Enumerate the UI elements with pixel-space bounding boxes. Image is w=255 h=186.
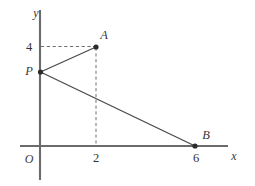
y-axis-label: y xyxy=(33,7,38,19)
point-P-label: P xyxy=(25,65,33,78)
origin-label: O xyxy=(25,153,34,165)
point-A-label: A xyxy=(100,29,108,42)
x-tick-label-2: 2 xyxy=(93,152,99,165)
geometry-figure: y x O 4 2 6 P A B xyxy=(0,0,255,186)
point-A-dot xyxy=(93,44,98,49)
segment-PA xyxy=(41,47,97,72)
x-tick-label-6: 6 xyxy=(193,152,199,165)
segment-PB xyxy=(41,72,196,146)
x-axis-label: x xyxy=(231,150,236,162)
point-P-dot xyxy=(38,69,43,74)
y-tick-label-4: 4 xyxy=(26,41,32,54)
point-B-dot xyxy=(192,143,197,148)
point-B-label: B xyxy=(202,129,210,142)
figure-canvas xyxy=(0,0,255,186)
